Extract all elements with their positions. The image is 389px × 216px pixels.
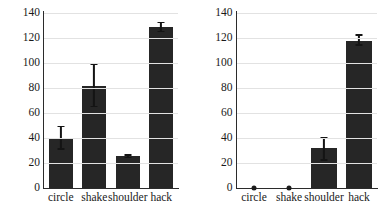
y-axis-tick-label: 100 [215,57,232,69]
plot-area-left [44,13,178,188]
error-bar-cap [356,44,363,46]
x-axis-tick-label: circle [241,192,267,204]
x-axis-tick-label: shoulder [108,192,148,204]
error-bar-cap [124,154,131,156]
gridline [237,113,377,114]
y-axis-tick-label: 80 [29,82,41,94]
x-axis-tick-label: hack [348,192,370,204]
y-axis-tick-label: 20 [221,157,233,169]
x-axis-labels-left: circleshakeshoulderhack [0,190,195,214]
gridline [44,38,178,39]
bar-series-left [44,13,178,188]
gridline [237,138,377,139]
y-axis-tick-label: 60 [29,107,41,119]
error-bar [93,63,95,106]
bar [116,156,140,189]
y-axis-tick-label: 140 [215,7,232,19]
bar-chart-figure: 020406080100120140 circleshakeshoulderha… [0,0,389,216]
y-axis-labels-left: 020406080100120140 [0,0,40,216]
y-axis-tick-label: 20 [29,157,41,169]
gridline [237,63,377,64]
gridline [44,113,178,114]
gridline [237,38,377,39]
x-axis-tick-label: shoulder [304,192,344,204]
gridline [44,88,178,89]
error-bar-cap [158,22,165,24]
x-axis-labels-right: circleshakeshoulderhack [195,190,389,214]
error-bar-cap [321,159,328,161]
x-axis-tick-label: shake [276,192,302,204]
x-axis-tick-label: hack [150,192,172,204]
bar-series-right [237,13,377,188]
error-bar-cap [356,34,363,36]
error-bar-cap [158,31,165,33]
chart-panel-left: 020406080100120140 circleshakeshoulderha… [0,0,195,216]
gridline [44,163,178,164]
gridline [237,88,377,89]
y-axis-tick-label: 140 [23,7,40,19]
gridline [237,13,377,14]
x-axis-tick-label: shake [81,192,107,204]
y-axis-tick-label: 60 [221,107,233,119]
y-axis-tick-label: 40 [29,132,41,144]
y-axis-tick-label: 40 [221,132,233,144]
error-bar-cap [91,106,98,108]
x-axis-tick-label: circle [48,192,74,204]
y-axis-tick-label: 80 [221,82,233,94]
gridline [44,63,178,64]
chart-panel-right: 020406080100120140 circleshakeshoulderha… [195,0,389,216]
error-bar-cap [124,157,131,159]
error-bar-cap [57,126,64,128]
error-bar [323,137,325,160]
error-bar-cap [57,148,64,150]
gridline [44,13,178,14]
gridline [44,138,178,139]
y-axis-tick-label: 100 [23,57,40,69]
y-axis-tick-label: 120 [23,32,40,44]
plot-area-right [237,13,377,188]
gridline [237,163,377,164]
error-bar [60,126,62,149]
y-axis-tick-label: 120 [215,32,232,44]
y-axis-labels-right: 020406080100120140 [195,0,233,216]
